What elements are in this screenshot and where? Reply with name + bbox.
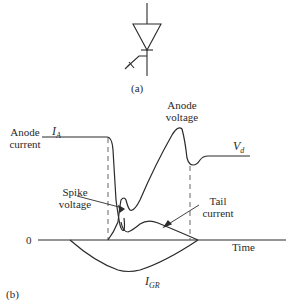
spike-voltage-label-line1: Spike xyxy=(53,186,97,198)
diode-triangle xyxy=(133,24,161,50)
vd-symbol-sub: d xyxy=(240,146,244,155)
gate-tail xyxy=(125,65,129,69)
anode-current-curve xyxy=(42,137,125,230)
anode-voltage-curve xyxy=(108,128,250,240)
spike-voltage-label-line2: voltage xyxy=(53,198,97,210)
tail-current-curve xyxy=(121,221,198,240)
time-axis-label: Time xyxy=(232,241,255,253)
part-b-label: (b) xyxy=(6,288,19,300)
spike-point xyxy=(119,206,124,212)
ia-symbol: IA xyxy=(52,125,61,142)
igr-symbol: IGR xyxy=(145,275,160,292)
igr-symbol-sub: GR xyxy=(149,281,160,290)
tail-arrow-head xyxy=(164,221,171,227)
anode-voltage-label-line1: Anode xyxy=(160,99,204,111)
vd-symbol: Vd xyxy=(233,140,244,157)
tail-current-label: Tail current xyxy=(196,195,240,219)
gto-turnoff-diagram xyxy=(0,0,289,304)
ia-symbol-sub: A xyxy=(56,131,61,140)
part-a-label: (a) xyxy=(131,82,143,94)
tail-current-label-line1: Tail xyxy=(196,195,240,207)
spike-voltage-label: Spike voltage xyxy=(53,186,97,210)
anode-current-label-line2: current xyxy=(3,138,47,150)
gate-current-curve xyxy=(70,240,198,272)
anode-voltage-label: Anode voltage xyxy=(160,99,204,123)
origin-label: 0 xyxy=(26,234,32,246)
tail-current-label-line2: current xyxy=(196,207,240,219)
anode-voltage-label-line2: voltage xyxy=(160,111,204,123)
anode-current-label-line1: Anode xyxy=(3,126,47,138)
anode-current-label: Anode current xyxy=(3,126,47,150)
tail-arrow-line xyxy=(167,205,199,225)
gto-thyristor-symbol xyxy=(125,3,161,76)
